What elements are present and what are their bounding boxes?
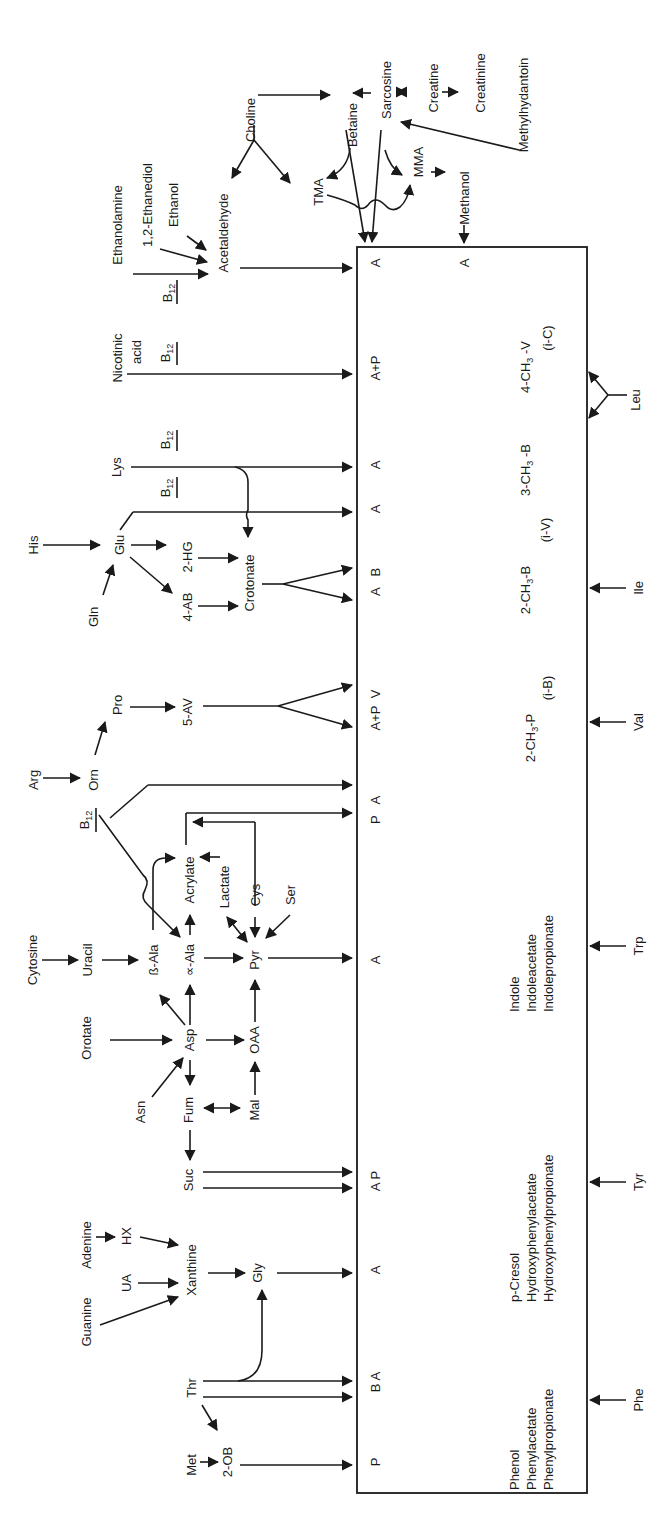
product-indole: Indole <box>507 977 522 1012</box>
label-4ab: 4-AB <box>180 593 195 622</box>
label-oaa: OAA <box>247 1026 262 1054</box>
label-methanol: Methanol <box>457 171 472 225</box>
label-met: Met <box>184 1454 199 1476</box>
product-label: P <box>368 1458 383 1467</box>
product-label: A <box>368 460 383 469</box>
product-4ch3-v: 4-CH3 -V <box>518 341 535 393</box>
label-lactate: Lactate <box>217 866 232 909</box>
label-asp: Asp <box>182 1029 197 1051</box>
label-ua: UA <box>119 1274 134 1292</box>
product-2ch3-p: 2-CH3-P <box>523 714 540 762</box>
product-label: B A <box>368 1372 383 1393</box>
label-his: His <box>26 535 41 554</box>
label-fum: Fum <box>181 1097 196 1123</box>
label-mma: MMA <box>411 147 426 178</box>
label-orotate: Orotate <box>79 1016 94 1059</box>
label-ethanediol: 1,2-Ethanediol <box>140 163 155 247</box>
pathway-arrows <box>42 92 627 1465</box>
product-label: A <box>368 1265 383 1274</box>
product-2ch3-b: 2-CH3-B <box>518 566 535 614</box>
label-uracil: Uracil <box>80 943 95 976</box>
label-b12-lys: B12 <box>158 431 175 450</box>
product-label: A B <box>368 568 383 596</box>
label-orn: Orn <box>86 769 101 791</box>
label-ethanolamine: Ethanolamine <box>110 185 125 265</box>
label-glu: Glu <box>112 535 127 555</box>
label-creatine: Creatine <box>426 63 441 112</box>
label-b12-nicotinic: B12 <box>158 344 175 363</box>
label-hx: HX <box>119 1227 134 1245</box>
label-2ob: 2-OB <box>220 1447 235 1477</box>
label-gly: Gly <box>250 1263 265 1283</box>
input-leu: Leu <box>628 389 643 411</box>
label-creatinine: Creatinine <box>473 53 488 112</box>
diagram-canvas: Choline Betaine Sarcosine Creatine Creat… <box>0 0 671 1521</box>
label-crotonate: Crotonate <box>242 554 257 611</box>
label-choline: Choline <box>243 98 258 142</box>
product-indoleacetate: Indoleacetate <box>524 934 539 1012</box>
product-phenylpropionate: Phenylpropionate <box>541 1389 556 1490</box>
label-b12-orn: B12 <box>77 811 94 830</box>
product-phenol: Phenol <box>507 1449 522 1490</box>
product-label: P A <box>368 796 383 825</box>
product-label: A+P V <box>368 689 383 730</box>
product-indolepropionate: Indolepropionate <box>541 915 556 1012</box>
label-lys: Lys <box>109 457 124 477</box>
label-suc: Suc <box>181 1168 196 1191</box>
label-gln: Gln <box>86 607 101 627</box>
label-methylhydantoin: Methylhydantoin <box>516 58 531 153</box>
product-label: A P <box>368 1171 383 1191</box>
input-val: Val <box>631 713 646 731</box>
label-guanine: Guanine <box>79 1297 94 1346</box>
product-3ch3-b: 3-CH3 -B <box>518 444 535 496</box>
label-tma: TMA <box>311 178 326 206</box>
product-label: A <box>457 258 472 267</box>
product-hydroxyphenylacetate: Hydroxyphenylacetate <box>524 1173 539 1302</box>
product-i-b: (i-B) <box>540 676 555 701</box>
label-acrylate: Acrylate <box>182 857 197 904</box>
product-label: A <box>368 504 383 513</box>
input-ile: Ile <box>631 581 646 595</box>
label-cytosine: Cytosine <box>25 935 40 986</box>
label-thr: Thr <box>184 1378 199 1398</box>
product-label: A <box>368 258 383 267</box>
label-adenine: Adenine <box>79 1221 94 1269</box>
branched-chain-products: 2-CH3-P (i-B) 2-CH3-B (i-V) 3-CH3 -B 4-C… <box>518 325 555 762</box>
product-i-c: (i-C) <box>540 325 555 350</box>
product-label: A <box>368 955 383 964</box>
label-sarcosine: Sarcosine <box>379 61 394 119</box>
label-xanthine: Xanthine <box>184 1244 199 1295</box>
label-acetaldehyde: Acetaldehyde <box>216 194 231 273</box>
label-b12-ethanolamine: B12 <box>160 284 177 303</box>
aromatic-products: Phenol Phenylacetate Phenylpropionate p-… <box>507 915 556 1490</box>
product-p-cresol: p-Cresol <box>507 1253 522 1302</box>
metabolic-pathway-diagram: Choline Betaine Sarcosine Creatine Creat… <box>0 0 671 1521</box>
label-2hg: 2-HG <box>180 541 195 572</box>
box-top-products: P B A A A P A P A A+P V A B A A A+P A A <box>368 258 472 1466</box>
input-phe: Phe <box>631 1388 646 1411</box>
products-box <box>357 247 587 1493</box>
input-tyr: Tyr <box>631 1172 646 1191</box>
label-arg: Arg <box>26 770 41 790</box>
label-pro: Pro <box>110 695 125 715</box>
product-phenylacetate: Phenylacetate <box>524 1408 539 1490</box>
product-hydroxyphenylpropionate: Hydroxyphenylpropionate <box>541 1155 556 1302</box>
input-trp: Trp <box>631 936 646 955</box>
product-i-v: (i-V) <box>538 518 553 543</box>
label-nicotinic: Nicotinic <box>110 333 125 383</box>
label-alpha-ala: ∝-Ala <box>182 943 197 976</box>
label-beta-ala: ß-Ala <box>146 944 161 976</box>
label-b12-glu: B12 <box>158 479 175 498</box>
label-5av: 5-AV <box>180 698 195 726</box>
label-ethanol: Ethanol <box>166 183 181 227</box>
label-pyr: Pyr <box>247 950 262 970</box>
label-mal: Mal <box>247 1099 262 1120</box>
label-asn: Asn <box>133 1101 148 1123</box>
label-acid: acid <box>129 340 144 364</box>
product-label: A+P <box>368 356 383 381</box>
label-ser: Ser <box>283 884 298 905</box>
